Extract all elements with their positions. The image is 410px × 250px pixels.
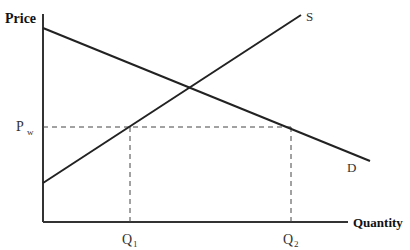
svg-text:2: 2: [294, 239, 299, 249]
svg-text:Q: Q: [122, 232, 132, 247]
demand-label: D: [347, 160, 356, 175]
supply-label: S: [306, 9, 313, 24]
q2-label: Q 2: [283, 232, 299, 249]
y-axis-label: Price: [5, 11, 36, 26]
supply-curve: [43, 15, 301, 183]
svg-text:P: P: [16, 119, 24, 134]
x-axis-label: Quantity: [353, 215, 403, 230]
svg-text:w: w: [27, 127, 34, 137]
demand-curve: [43, 28, 370, 161]
q1-label: Q 1: [122, 232, 138, 249]
svg-text:1: 1: [133, 239, 138, 249]
svg-text:Q: Q: [283, 232, 293, 247]
pw-label: P w: [16, 119, 34, 137]
supply-demand-diagram: Price Quantity S D P w Q 1 Q 2: [0, 0, 410, 250]
